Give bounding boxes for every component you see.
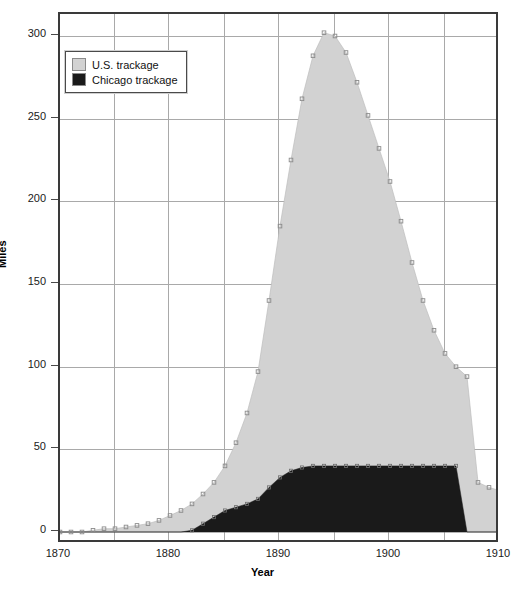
x-tick-label-1900: 1900 xyxy=(353,548,423,559)
y-tick-mark-150 xyxy=(51,282,58,283)
y-tick-label-100: 100 xyxy=(0,359,46,370)
area-us-trackage xyxy=(60,33,496,532)
x-axis-label: Year xyxy=(0,566,525,578)
chart-container: 050100150200250300 18701880189019001910 … xyxy=(0,0,525,592)
y-tick-mark-50 xyxy=(51,447,58,448)
y-tick-label-300: 300 xyxy=(0,28,46,39)
y-tick-label-200: 200 xyxy=(0,193,46,204)
y-tick-mark-250 xyxy=(51,117,58,118)
x-tick-label-1910: 1910 xyxy=(463,548,525,559)
y-tick-mark-300 xyxy=(51,34,58,35)
y-tick-label-50: 50 xyxy=(0,441,46,452)
legend-item-chicago-trackage: Chicago trackage xyxy=(72,72,178,87)
y-tick-label-0: 0 xyxy=(0,524,46,535)
legend-swatch-us-trackage xyxy=(72,58,86,71)
x-tick-label-1870: 1870 xyxy=(23,548,93,559)
legend-swatch-chicago-trackage xyxy=(72,73,86,86)
y-tick-mark-100 xyxy=(51,365,58,366)
legend-label-us-trackage: U.S. trackage xyxy=(92,59,159,71)
x-tick-label-1890: 1890 xyxy=(243,548,313,559)
y-tick-mark-0 xyxy=(51,530,58,531)
legend-item-us-trackage: U.S. trackage xyxy=(72,57,178,72)
x-tick-label-1880: 1880 xyxy=(133,548,203,559)
legend-label-chicago-trackage: Chicago trackage xyxy=(92,74,178,86)
y-axis-label: Miles xyxy=(0,240,8,268)
y-tick-mark-200 xyxy=(51,199,58,200)
y-tick-label-250: 250 xyxy=(0,111,46,122)
legend: U.S. trackage Chicago trackage xyxy=(65,51,187,93)
y-tick-label-150: 150 xyxy=(0,276,46,287)
